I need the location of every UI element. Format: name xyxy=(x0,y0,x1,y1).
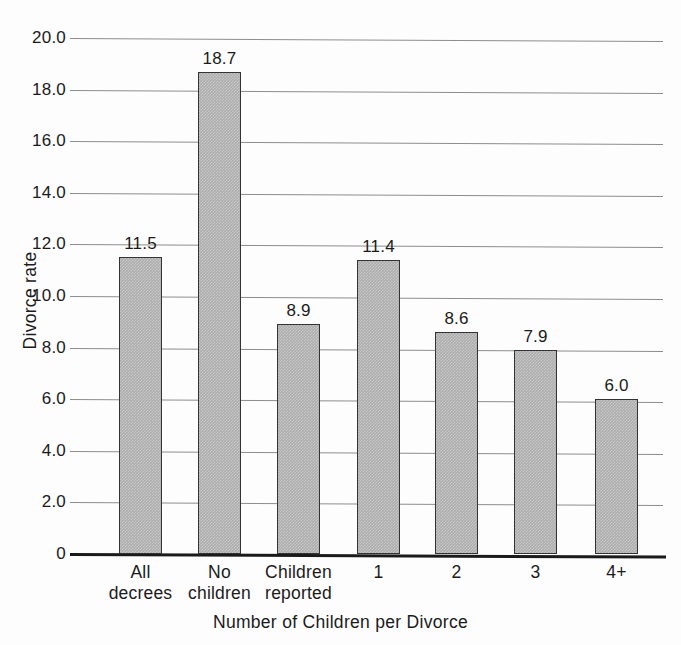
gridline-18.0 xyxy=(70,90,663,94)
bar-value-label: 7.9 xyxy=(496,327,575,347)
bar xyxy=(119,257,162,554)
y-tick-label-0: 0 xyxy=(10,544,66,564)
bar xyxy=(357,260,400,554)
plot-area: 02.04.06.08.010.012.014.016.018.020.0 11… xyxy=(0,0,681,645)
x-axis-title: Number of Children per Divorce xyxy=(0,612,681,633)
y-tick-label-16.0: 16.0 xyxy=(10,131,66,151)
y-tick-label-4.0: 4.0 xyxy=(10,441,66,461)
bar xyxy=(514,350,557,554)
bar xyxy=(277,324,320,554)
gridline-16.0 xyxy=(70,141,663,145)
bar-value-label: 11.5 xyxy=(101,234,180,254)
y-tick-label-2.0: 2.0 xyxy=(10,492,66,512)
divorce-rate-bar-chart-figure: 02.04.06.08.010.012.014.016.018.020.0 11… xyxy=(0,0,681,645)
gridline-20.0 xyxy=(70,38,663,42)
bar xyxy=(198,72,241,554)
y-tick-label-18.0: 18.0 xyxy=(10,80,66,100)
bar-value-label: 8.9 xyxy=(259,301,338,321)
category-label: 4+ xyxy=(562,562,672,583)
bar xyxy=(595,399,638,554)
y-axis-title: Divorce rate xyxy=(20,201,41,401)
y-tick-label-20.0: 20.0 xyxy=(10,28,66,48)
bar xyxy=(435,332,478,554)
bar-value-label: 6.0 xyxy=(577,376,656,396)
bar-value-label: 8.6 xyxy=(417,309,496,329)
bar-value-label: 11.4 xyxy=(339,237,418,257)
bar-value-label: 18.7 xyxy=(180,49,259,69)
gridline-14.0 xyxy=(70,193,663,197)
